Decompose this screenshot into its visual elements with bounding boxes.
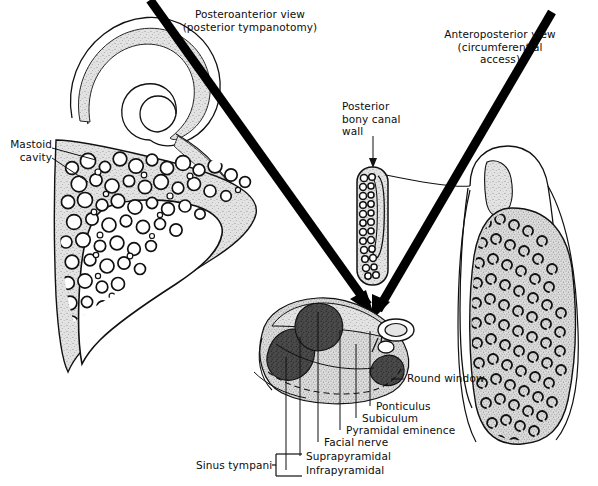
suprapyramidal-recess <box>295 303 343 350</box>
label-sinus-tympani: Sinus tympani <box>196 459 270 472</box>
label-round-window: Round window <box>407 372 485 385</box>
middle-ear-retrotympanum-diagram <box>0 0 598 486</box>
label-mastoid-cavity: Mastoid cavity <box>4 138 52 163</box>
label-suprapyramidal: Suprapyramidal <box>306 450 391 463</box>
anatomical-figure: Posteroanterior view (posterior tympanot… <box>0 0 598 486</box>
title-anteroposterior-view: Anteroposterior view (circumferential ac… <box>430 28 570 66</box>
title-posteroanterior-view: Posteroanterior view (posterior tympanot… <box>176 8 324 33</box>
label-pyramidal-eminence: Pyramidal eminence <box>346 424 455 437</box>
label-posterior-bony-canal-wall: Posterior bony canal wall <box>342 100 412 138</box>
label-subiculum: Subiculum <box>362 412 418 425</box>
label-ponticulus: Ponticulus <box>376 400 431 413</box>
label-infrapyramidal: Infrapyramidal <box>306 464 384 477</box>
label-facial-nerve: Facial nerve <box>324 436 388 449</box>
